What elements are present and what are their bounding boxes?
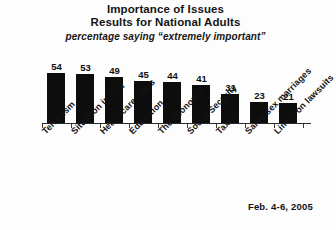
chart-note: percentage saying “extremely important” — [0, 30, 331, 43]
bar-value-label: 45 — [129, 70, 158, 80]
x-axis-category-labels: TerrorismSituation in IraqHealthcare cos… — [0, 123, 331, 193]
footer-date: Feb. 4-6, 2005 — [248, 201, 313, 212]
bar-value-label: 53 — [71, 63, 100, 73]
bar-value-label: 23 — [245, 91, 274, 101]
chart-subtitle: Results for National Adults — [0, 16, 331, 29]
bar-value-label: 44 — [158, 71, 187, 81]
chart-title-block: Importance of Issues Results for Nationa… — [0, 3, 331, 43]
bar-value-label: 49 — [100, 66, 129, 76]
bar-value-label: 54 — [42, 62, 71, 72]
chart-title: Importance of Issues — [0, 3, 331, 16]
bar-value-label: 41 — [187, 74, 216, 84]
